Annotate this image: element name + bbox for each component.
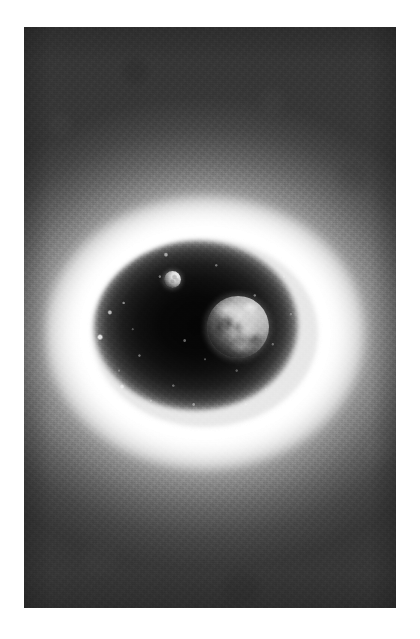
- scene-description: Earth and Moon enclosed by a luminous el…: [0, 0, 1, 1]
- page-canvas: Earth and Moon enclosed by a luminous el…: [0, 0, 420, 639]
- astronomy-image-plate: [24, 27, 396, 608]
- film-grain-overlay: [24, 27, 396, 608]
